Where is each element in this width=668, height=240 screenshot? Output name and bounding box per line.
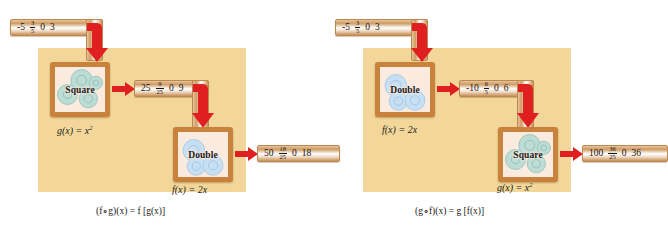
fraction-numerator: 9 (157, 81, 162, 88)
left-machine-square-label: Square (65, 85, 94, 95)
fraction-denominator: 25 (279, 153, 288, 161)
left-output-values: 50 18 25 0 18 (258, 146, 317, 160)
right-output-values: 100 36 25 0 36 (583, 146, 647, 160)
fraction: 18 25 (279, 146, 288, 160)
left-middle-values: 25 9 25 0 9 (135, 81, 190, 95)
right-arrow-square-to-output (560, 146, 584, 162)
value: 3 (375, 23, 380, 33)
fraction-denominator: 25 (608, 153, 617, 161)
value: 0 (169, 84, 174, 94)
fraction: 3 5 (30, 20, 35, 34)
value: 100 (589, 149, 603, 159)
value: 0 (40, 23, 45, 33)
value: 18 (302, 149, 312, 159)
right-middle-values: -10 6 5 0 6 (460, 81, 514, 95)
value: -5 (342, 23, 350, 33)
fraction-denominator: 5 (30, 27, 35, 35)
value: 9 (179, 84, 184, 94)
value: 0 (365, 23, 370, 33)
value: 3 (50, 23, 55, 33)
left-function-f-label: f(x) = 2x (172, 184, 207, 195)
fraction: 3 5 (355, 20, 360, 34)
left-composition-diagram: -5 3 5 0 3 (0, 0, 325, 240)
left-function-g-label: g(x) = x2 (57, 124, 93, 136)
value: 50 (264, 149, 274, 159)
fraction: 6 5 (484, 81, 489, 95)
right-input-values: -5 3 5 0 3 (336, 20, 386, 34)
right-composition-diagram: -5 3 5 0 3 (325, 0, 650, 240)
left-input-values: -5 3 5 0 3 (11, 20, 61, 34)
right-function-g-text: g(x) = x (497, 182, 529, 193)
fraction-numerator: 18 (279, 146, 288, 153)
left-arrow-input-to-square (83, 20, 111, 65)
right-arrow-input-to-double (408, 20, 436, 65)
left-arrow-middle-to-double (189, 81, 217, 131)
value: -10 (466, 84, 479, 94)
left-arrow-square-to-middle (112, 81, 136, 97)
right-machine-double-label: Double (390, 85, 420, 95)
fraction-numerator: 3 (30, 20, 35, 27)
fraction-denominator: 5 (355, 27, 360, 35)
fraction: 9 25 (156, 81, 165, 95)
left-arrow-double-to-output (235, 146, 259, 162)
fraction: 36 25 (608, 146, 617, 160)
fraction-denominator: 5 (484, 88, 489, 96)
left-machine-double[interactable]: Double (173, 127, 233, 182)
fraction-numerator: 6 (484, 81, 489, 88)
right-arrow-double-to-middle (437, 81, 461, 97)
right-function-f-label: f(x) = 2x (382, 124, 417, 135)
value: 0 (292, 149, 297, 159)
right-function-g-label: g(x) = x2 (497, 181, 533, 193)
right-machine-square-label: Square (513, 150, 542, 160)
right-machine-square[interactable]: Square (498, 127, 558, 182)
fraction-denominator: 25 (156, 88, 165, 96)
value: 25 (141, 84, 151, 94)
value: -5 (17, 23, 25, 33)
right-arrow-middle-to-square (514, 81, 542, 131)
left-caption: (f∘g)(x) = f [g(x)] (96, 205, 165, 216)
left-machine-square[interactable]: Square (50, 62, 110, 117)
right-output-bar: 100 36 25 0 36 (582, 145, 668, 162)
fraction-numerator: 36 (608, 146, 617, 153)
left-function-g-exponent: 2 (89, 124, 92, 131)
right-caption: (g∘f)(x) = g [f(x)] (415, 205, 484, 216)
value: 0 (494, 84, 499, 94)
value: 6 (504, 84, 509, 94)
value: 0 (622, 149, 627, 159)
fraction-numerator: 3 (355, 20, 360, 27)
right-machine-double[interactable]: Double (375, 62, 435, 117)
left-machine-double-label: Double (188, 150, 218, 160)
left-function-g-text: g(x) = x (57, 125, 89, 136)
value: 36 (632, 149, 642, 159)
right-function-g-exponent: 2 (529, 181, 532, 188)
